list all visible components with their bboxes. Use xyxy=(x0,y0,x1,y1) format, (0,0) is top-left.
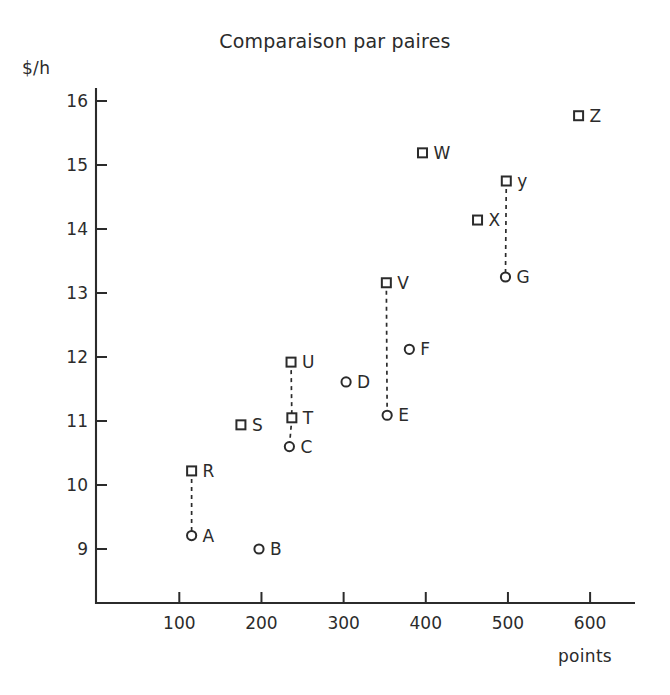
x-tick-label: 200 xyxy=(245,613,277,633)
data-point-marker-square-t[interactable] xyxy=(287,413,296,422)
data-point-label-z: Z xyxy=(590,106,602,126)
data-point-label-b: B xyxy=(270,539,282,559)
data-point-marker-circle-b[interactable] xyxy=(254,544,263,553)
data-point-marker-circle-f[interactable] xyxy=(405,345,414,354)
y-tick-label: 13 xyxy=(66,283,88,303)
data-point-marker-circle-c[interactable] xyxy=(285,442,294,451)
x-tick-label: 100 xyxy=(163,613,195,633)
axis-lines xyxy=(96,88,635,603)
data-point-label-r: R xyxy=(203,461,215,481)
data-point-marker-circle-d[interactable] xyxy=(341,377,350,386)
data-point-label-g: G xyxy=(516,267,529,287)
y-tick-label: 11 xyxy=(66,411,88,431)
axis-spines xyxy=(96,88,635,603)
data-point-label-x: X xyxy=(489,210,501,230)
pair-connector-u-t xyxy=(291,362,292,418)
data-point-label-a: A xyxy=(203,526,215,546)
data-point-label-y: y xyxy=(517,171,527,191)
data-point-marker-square-w[interactable] xyxy=(418,148,427,157)
y-tick-group: 910111213141516 xyxy=(66,91,107,559)
data-point-label-t: T xyxy=(302,408,314,428)
data-point-label-w: W xyxy=(433,143,450,163)
data-point-marker-circle-e[interactable] xyxy=(383,411,392,420)
data-point-label-u: U xyxy=(302,352,314,372)
pair-link-group xyxy=(192,181,507,536)
data-point-label-s: S xyxy=(252,415,263,435)
data-point-marker-square-z[interactable] xyxy=(574,111,583,120)
x-tick-label: 500 xyxy=(492,613,524,633)
data-point-label-e: E xyxy=(398,405,409,425)
x-tick-label: 600 xyxy=(574,613,606,633)
y-tick-label: 14 xyxy=(66,219,88,239)
pair-connector-y-g xyxy=(505,181,506,277)
data-point-marker-square-r[interactable] xyxy=(187,466,196,475)
y-tick-label: 9 xyxy=(77,539,88,559)
data-point-marker-square-s[interactable] xyxy=(236,420,245,429)
data-point-marker-square-v[interactable] xyxy=(382,278,391,287)
data-point-label-d: D xyxy=(357,372,370,392)
pair-connector-v-e xyxy=(386,283,387,415)
x-tick-group: 100200300400500600 xyxy=(163,592,606,633)
data-point-marker-square-x[interactable] xyxy=(473,216,482,225)
data-point-label-v: V xyxy=(397,273,409,293)
y-tick-label: 12 xyxy=(66,347,88,367)
data-point-marker-circle-g[interactable] xyxy=(501,272,510,281)
pairwise-comparison-chart: Comparaison par paires $/h points 910111… xyxy=(0,0,670,695)
data-point-group: ABCDEFGRSTUVWXyZ xyxy=(187,106,601,559)
data-point-marker-circle-a[interactable] xyxy=(187,531,196,540)
y-tick-label: 15 xyxy=(66,155,88,175)
data-point-label-f: F xyxy=(420,339,430,359)
x-tick-label: 300 xyxy=(327,613,359,633)
plot-area: 910111213141516 100200300400500600 ABCDE… xyxy=(0,0,670,695)
data-point-marker-square-y[interactable] xyxy=(502,177,511,186)
x-tick-label: 400 xyxy=(410,613,442,633)
data-point-marker-square-u[interactable] xyxy=(287,358,296,367)
data-point-label-c: C xyxy=(300,437,312,457)
y-tick-label: 16 xyxy=(66,91,88,111)
y-tick-label: 10 xyxy=(66,475,88,495)
